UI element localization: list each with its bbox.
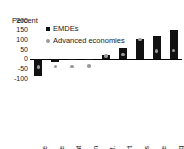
bar-construction xyxy=(85,59,93,60)
x-axis-label-manuf: Manuf. xyxy=(109,146,116,149)
marker-construction xyxy=(87,64,91,68)
y-axis-tick-50: 50 xyxy=(4,46,28,53)
marker-manuf xyxy=(104,54,108,58)
bar-utilities xyxy=(136,39,144,58)
marker-trade xyxy=(54,65,58,69)
x-axis-label-finance: Finance xyxy=(160,146,167,149)
y-axis-tick-0: 0 xyxy=(4,55,28,62)
x-axis-tick-labels: AgricultureTradeGovernmentConstructionMa… xyxy=(30,80,182,149)
x-axis-label-trade: Trade xyxy=(58,146,65,149)
y-axis-tick-200: 200 xyxy=(4,17,28,24)
y-axis-tick-neg50: -50 xyxy=(4,65,28,72)
y-axis-tick-100: 100 xyxy=(4,36,28,43)
marker-agriculture xyxy=(37,65,41,69)
marker-government xyxy=(70,65,74,69)
bar-mining xyxy=(170,30,178,59)
y-axis-tick-150: 150 xyxy=(4,26,28,33)
x-axis-label-agriculture: Agriculture xyxy=(41,146,48,149)
bar-finance xyxy=(153,36,161,58)
x-axis-label-transport: Transport xyxy=(126,146,133,149)
chart-figure: Percent 200150100500-50-100 EMDEsAdvance… xyxy=(0,0,184,149)
x-axis-label-government: Government xyxy=(75,146,82,149)
x-axis-label-utilities: Utilities xyxy=(143,146,150,149)
bar-government xyxy=(68,59,76,60)
marker-utilities xyxy=(138,38,142,42)
bar-trade xyxy=(51,59,59,62)
x-axis-label-mining: Mining xyxy=(177,146,184,149)
plot-area xyxy=(30,20,182,78)
y-axis-tick-labels: 200150100500-50-100 xyxy=(2,0,28,149)
y-axis-tick-neg100: -100 xyxy=(4,75,28,82)
x-axis-label-construction: Construction xyxy=(92,146,99,149)
marker-transport xyxy=(121,53,125,57)
